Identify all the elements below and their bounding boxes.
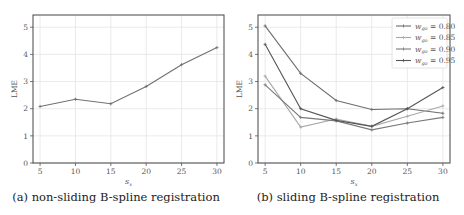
legend-entry: wgo = 0.80 <box>415 22 456 33</box>
legend: wgo = 0.80wgo = 0.85wgo = 0.90wgo = 0.95 <box>392 18 456 68</box>
y-tick-label: 3 <box>23 77 28 86</box>
y-tick-label: 5 <box>248 23 253 32</box>
y-tick-label: 5 <box>23 23 28 32</box>
x-tick-label: 10 <box>296 167 306 176</box>
x-tick-label: 30 <box>438 167 448 176</box>
plot-frame <box>33 15 224 163</box>
panel-a: 51015202530012345sxLME (a) non-sliding B… <box>0 0 232 215</box>
x-tick-label: 5 <box>38 167 43 176</box>
x-tick-label: 20 <box>367 167 377 176</box>
y-tick-label: 2 <box>248 104 253 113</box>
caption-b: (b) sliding B-spline registration <box>232 190 464 204</box>
chart-sliding: 51015202530012345sxLMEwgo = 0.80wgo = 0.… <box>232 0 464 190</box>
series-line <box>265 76 443 127</box>
x-tick-label: 10 <box>71 167 81 176</box>
x-tick-label: 5 <box>263 167 268 176</box>
x-tick-label: 30 <box>212 167 222 176</box>
y-tick-label: 0 <box>248 159 253 168</box>
legend-entry: wgo = 0.95 <box>415 56 456 66</box>
caption-a: (a) non-sliding B-spline registration <box>0 190 232 204</box>
y-axis-label: LME <box>235 80 244 98</box>
x-tick-label: 15 <box>331 167 341 176</box>
y-tick-label: 1 <box>23 132 28 141</box>
y-tick-label: 3 <box>248 77 253 86</box>
y-tick-label: 0 <box>23 159 28 168</box>
y-tick-label: 4 <box>23 50 28 59</box>
panel-b: 51015202530012345sxLMEwgo = 0.80wgo = 0.… <box>232 0 464 215</box>
legend-entry: wgo = 0.85 <box>415 33 456 44</box>
series-line <box>40 48 217 107</box>
y-tick-label: 4 <box>248 50 253 59</box>
chart-non-sliding: 51015202530012345sxLME <box>0 0 232 190</box>
y-tick-label: 1 <box>248 132 253 141</box>
x-tick-label: 25 <box>403 167 413 176</box>
x-tick-label: 25 <box>177 167 187 176</box>
x-axis-label: sx <box>125 177 132 187</box>
y-axis-label: LME <box>10 80 19 98</box>
y-tick-label: 2 <box>23 104 28 113</box>
legend-entry: wgo = 0.90 <box>415 45 456 56</box>
x-axis-label: sx <box>351 177 358 187</box>
x-tick-label: 20 <box>141 167 151 176</box>
x-tick-label: 15 <box>106 167 116 176</box>
